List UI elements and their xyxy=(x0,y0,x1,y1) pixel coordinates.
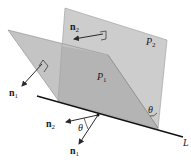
planes-angle-diagram: n2 P2 P1 n1 n2 n1 θ θ L xyxy=(0,0,191,160)
theta-label-planes: θ xyxy=(148,104,153,115)
n1-label-bottom: n1 xyxy=(70,145,80,158)
line-l-label: L xyxy=(182,137,189,148)
n1-label-left: n1 xyxy=(9,87,19,100)
theta-arc-normals xyxy=(84,118,88,129)
n2-label-bottom: n2 xyxy=(46,118,56,131)
theta-label-normals: θ xyxy=(78,122,83,133)
n1-vector-on-plane xyxy=(22,64,42,86)
n2-vector-at-point xyxy=(66,115,98,122)
